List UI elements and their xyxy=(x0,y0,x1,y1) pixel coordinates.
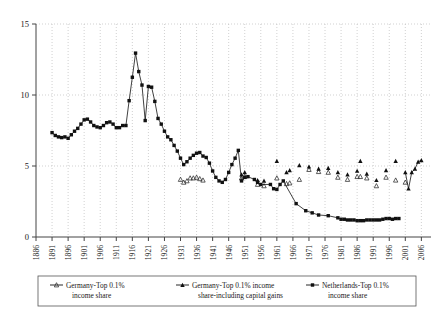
data-point-series-2 xyxy=(275,188,278,191)
data-point-series-0 xyxy=(326,170,330,174)
data-point-series-2 xyxy=(394,217,397,220)
data-point-series-2 xyxy=(365,218,368,221)
data-point-series-2 xyxy=(355,219,358,222)
x-axis-label: 1966 xyxy=(289,245,298,260)
x-axis-label: 2006 xyxy=(417,245,426,260)
x-axis-label: 1951 xyxy=(241,245,250,260)
legend-label-0: Germany-Top 0.1% xyxy=(66,281,125,290)
data-point-series-2 xyxy=(176,149,179,152)
legend-label-1: Germany-Top 0.1% income xyxy=(192,281,275,290)
data-point-series-2 xyxy=(201,154,204,157)
data-point-series-2 xyxy=(137,70,140,73)
x-axis-label: 1991 xyxy=(369,245,378,260)
data-point-series-2 xyxy=(272,187,275,190)
data-point-series-2 xyxy=(368,218,371,221)
data-point-series-2 xyxy=(163,130,166,133)
data-point-series-2 xyxy=(282,179,285,182)
data-point-series-2 xyxy=(391,218,394,221)
data-point-series-2 xyxy=(327,214,330,217)
x-axis-label: 1886 xyxy=(32,245,41,260)
x-axis-label: 1891 xyxy=(48,245,57,260)
data-point-series-2 xyxy=(95,125,98,128)
data-point-series-2 xyxy=(343,218,346,221)
data-point-series-2 xyxy=(115,126,118,129)
data-point-series-2 xyxy=(375,218,378,221)
chart-svg: 0510151886189118961901190619111916192119… xyxy=(0,0,439,312)
y-axis-label: 5 xyxy=(25,161,29,171)
data-point-series-0 xyxy=(384,175,388,179)
x-axis-label: 1946 xyxy=(225,245,234,260)
data-point-series-1 xyxy=(316,167,320,171)
data-point-series-2 xyxy=(169,138,172,141)
x-axis-label: 1906 xyxy=(96,245,105,260)
data-point-series-2 xyxy=(86,117,89,120)
x-axis-label: 1941 xyxy=(209,245,218,260)
data-point-series-2 xyxy=(118,126,121,129)
data-point-series-2 xyxy=(179,156,182,159)
data-point-series-2 xyxy=(205,156,208,159)
data-point-series-1 xyxy=(393,159,397,163)
data-point-series-2 xyxy=(66,137,69,140)
y-axis-label: 10 xyxy=(21,90,30,100)
data-point-series-2 xyxy=(121,124,124,127)
data-point-series-2 xyxy=(79,122,82,125)
x-axis-label: 1971 xyxy=(305,245,314,260)
data-point-series-2 xyxy=(195,152,198,155)
data-point-series-2 xyxy=(221,181,224,184)
data-point-series-2 xyxy=(50,131,53,134)
data-point-series-2 xyxy=(214,176,217,179)
x-axis-label: 1926 xyxy=(160,245,169,260)
y-axis-label: 15 xyxy=(21,19,30,29)
data-point-series-2 xyxy=(105,121,108,124)
data-point-series-2 xyxy=(378,218,381,221)
chart-container: 0510151886189118961901190619111916192119… xyxy=(0,0,439,312)
data-point-series-2 xyxy=(310,211,313,214)
data-point-series-2 xyxy=(352,218,355,221)
x-axis-label: 2001 xyxy=(401,245,410,260)
data-point-series-2 xyxy=(346,218,349,221)
data-point-series-2 xyxy=(211,169,214,172)
data-point-series-1 xyxy=(419,158,423,162)
data-point-series-2 xyxy=(198,151,201,154)
x-axis-label: 1936 xyxy=(193,245,202,260)
data-point-series-0 xyxy=(393,178,397,182)
data-point-series-2 xyxy=(124,124,127,127)
data-point-series-2 xyxy=(224,178,227,181)
data-point-series-2 xyxy=(153,100,156,103)
data-point-series-2 xyxy=(143,119,146,122)
data-point-series-2 xyxy=(134,51,137,54)
y-axis-label: 0 xyxy=(25,232,29,242)
x-axis-label: 1916 xyxy=(128,245,137,260)
data-point-series-2 xyxy=(182,163,185,166)
data-point-series-1 xyxy=(384,168,388,172)
data-point-series-2 xyxy=(70,133,73,136)
x-axis-label: 1956 xyxy=(257,245,266,260)
data-point-series-2 xyxy=(60,136,63,139)
data-point-series-2 xyxy=(243,176,246,179)
x-axis-label: 1986 xyxy=(353,245,362,260)
data-point-series-2 xyxy=(99,126,102,129)
legend-marker-2 xyxy=(311,283,314,286)
data-point-series-2 xyxy=(172,144,175,147)
data-point-series-1 xyxy=(262,179,266,183)
data-point-series-2 xyxy=(82,118,85,121)
data-point-series-2 xyxy=(156,117,159,120)
data-point-series-2 xyxy=(336,216,339,219)
data-point-series-2 xyxy=(384,217,387,220)
data-point-series-0 xyxy=(345,177,349,181)
data-point-series-2 xyxy=(131,76,134,79)
data-point-series-0 xyxy=(287,181,291,185)
legend-label-2-line2: income share xyxy=(328,291,368,300)
data-point-series-1 xyxy=(365,172,369,176)
data-point-series-2 xyxy=(269,183,272,186)
data-point-series-2 xyxy=(294,202,297,205)
data-point-series-2 xyxy=(127,99,130,102)
data-point-series-2 xyxy=(381,218,384,221)
data-point-series-2 xyxy=(166,135,169,138)
data-point-series-1 xyxy=(358,159,362,163)
x-axis-label: 1961 xyxy=(273,245,282,260)
data-point-series-2 xyxy=(233,156,236,159)
data-point-series-0 xyxy=(201,178,205,182)
data-point-series-2 xyxy=(57,135,60,138)
data-point-series-2 xyxy=(388,217,391,220)
